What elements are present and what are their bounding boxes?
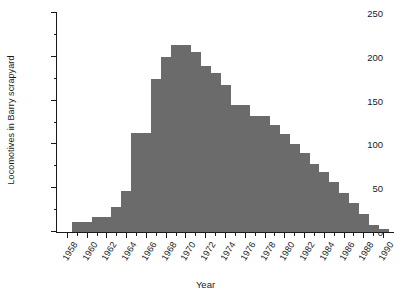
y-axis-tick-minor xyxy=(54,165,58,166)
x-axis-tick-label: 1984 xyxy=(317,240,336,262)
x-axis-tick-label: 1968 xyxy=(159,240,178,262)
bar xyxy=(378,229,388,232)
x-axis-tick-major xyxy=(383,232,384,238)
x-axis-tick-major xyxy=(225,232,226,238)
x-axis-tick-minor xyxy=(195,232,196,236)
x-axis-tick-major xyxy=(344,232,345,238)
x-axis-tick-major xyxy=(67,232,68,238)
x-axis-tick-minor xyxy=(156,232,157,236)
x-axis-tick-minor xyxy=(294,232,295,236)
x-axis-tick-major xyxy=(166,232,167,238)
x-axis-tick-label: 1974 xyxy=(218,240,237,262)
y-axis-tick-label: 100 xyxy=(367,139,383,150)
x-axis-tick-major xyxy=(304,232,305,238)
x-axis-tick-label: 1988 xyxy=(357,240,376,262)
x-axis-tick-label: 1962 xyxy=(100,240,119,262)
x-axis-tick-label: 1986 xyxy=(337,240,356,262)
x-axis-title: Year xyxy=(0,279,411,290)
x-axis-tick-major xyxy=(324,232,325,238)
bar xyxy=(161,57,171,232)
y-axis-tick-major xyxy=(51,231,57,232)
y-axis-tick-label: 200 xyxy=(367,51,383,62)
x-axis-tick-major xyxy=(146,232,147,238)
x-axis-tick-major xyxy=(265,232,266,238)
x-axis-tick-minor xyxy=(255,232,256,236)
bar xyxy=(111,207,121,232)
x-axis-tick-label: 1972 xyxy=(199,240,218,262)
x-axis-tick-label: 1978 xyxy=(258,240,277,262)
x-axis-tick-minor xyxy=(176,232,177,236)
bar xyxy=(240,105,250,232)
x-axis-tick-minor xyxy=(334,232,335,236)
x-axis-tick-label: 1958 xyxy=(60,240,79,262)
chart-figure: Locomotives in Barry scrapyard 050100150… xyxy=(0,0,411,300)
bar xyxy=(329,182,339,232)
y-axis-tick-label: 150 xyxy=(367,95,383,106)
x-axis-tick-label: 1980 xyxy=(278,240,297,262)
x-axis-tick-major xyxy=(363,232,364,238)
bar xyxy=(368,225,378,232)
y-axis-tick-major xyxy=(51,100,57,101)
x-axis-tick-minor xyxy=(353,232,354,236)
x-axis-tick-minor xyxy=(235,232,236,236)
y-axis-tick-minor xyxy=(54,122,58,123)
x-axis-tick-label: 1976 xyxy=(238,240,257,262)
y-axis-tick-minor xyxy=(54,34,58,35)
y-axis-title-text: Locomotives in Barry scrapyard xyxy=(6,55,16,184)
x-axis-tick-major xyxy=(185,232,186,238)
plot-area: 0501001502002501958196019621964196619681… xyxy=(57,13,393,232)
x-axis-tick-label: 1966 xyxy=(139,240,158,262)
x-axis-tick-minor xyxy=(116,232,117,236)
x-axis-tick-minor xyxy=(314,232,315,236)
x-axis-tick-minor xyxy=(373,232,374,236)
y-axis-tick-major xyxy=(51,56,57,57)
x-axis-tick-major xyxy=(205,232,206,238)
y-axis-tick-major xyxy=(51,12,57,13)
bar xyxy=(200,66,210,232)
x-axis-tick-label: 1982 xyxy=(297,240,316,262)
x-axis-tick-minor xyxy=(136,232,137,236)
x-axis-tick-label: 1990 xyxy=(376,240,395,262)
bar xyxy=(349,203,359,232)
bar xyxy=(299,153,309,232)
y-axis-tick-label: 50 xyxy=(372,183,383,194)
x-axis-tick-label: 1960 xyxy=(80,240,99,262)
y-axis-tick-minor xyxy=(54,209,58,210)
x-axis-tick-minor xyxy=(97,232,98,236)
bar xyxy=(72,222,82,233)
x-axis-tick-major xyxy=(126,232,127,238)
y-axis-tick-minor xyxy=(54,78,58,79)
x-axis-tick-major xyxy=(245,232,246,238)
y-axis-tick-major xyxy=(51,187,57,188)
bar xyxy=(181,45,191,232)
x-axis-tick-label: 1970 xyxy=(179,240,198,262)
x-axis-tick-minor xyxy=(215,232,216,236)
bar xyxy=(279,134,289,232)
y-axis-title: Locomotives in Barry scrapyard xyxy=(2,0,20,240)
bar xyxy=(220,85,230,232)
x-axis-tick-major xyxy=(106,232,107,238)
y-axis-tick-major xyxy=(51,143,57,144)
y-axis-tick-label: 250 xyxy=(367,8,383,19)
bar xyxy=(260,116,270,232)
x-axis-tick-minor xyxy=(274,232,275,236)
x-axis-tick-major xyxy=(284,232,285,238)
x-axis-tick-label: 1964 xyxy=(120,240,139,262)
bar xyxy=(131,133,141,232)
x-axis-tick-major xyxy=(87,232,88,238)
bar xyxy=(92,217,102,232)
x-axis-tick-minor xyxy=(77,232,78,236)
